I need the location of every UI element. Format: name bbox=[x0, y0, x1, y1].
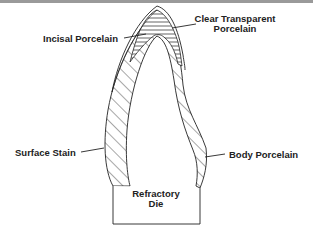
label-line-2: Die bbox=[126, 199, 186, 209]
body-porcelain-layer bbox=[105, 12, 207, 188]
label-clear-transparent: Clear Transparent Porcelain bbox=[190, 14, 280, 34]
label-incisal: Incisal Porcelain bbox=[43, 34, 118, 44]
leader-body bbox=[205, 154, 225, 157]
label-die: Refractory Die bbox=[126, 189, 186, 209]
label-line-2: Porcelain bbox=[190, 24, 280, 34]
leader-surface-stain bbox=[81, 148, 104, 152]
label-surface-stain: Surface Stain bbox=[15, 148, 76, 158]
label-body: Body Porcelain bbox=[229, 150, 298, 160]
